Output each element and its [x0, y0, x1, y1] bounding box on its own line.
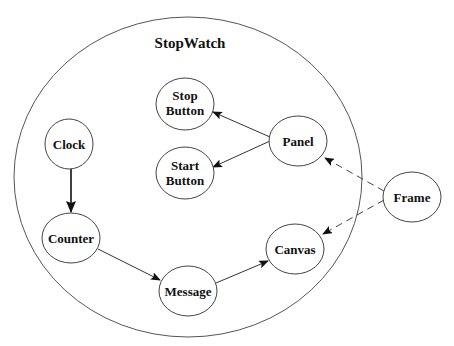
node-clock: Clock — [45, 119, 93, 169]
node-stop-button: Stop Button — [156, 78, 214, 130]
node-canvas: Canvas — [266, 224, 324, 274]
node-message: Message — [159, 266, 217, 316]
node-frame: Frame — [383, 172, 441, 222]
container-title: StopWatch — [155, 35, 227, 51]
node-clock-label: Clock — [53, 137, 86, 152]
node-message-label: Message — [165, 284, 212, 299]
edge-message-canvas — [216, 261, 268, 283]
node-frame-label: Frame — [394, 190, 431, 205]
node-start-button: Start Button — [156, 147, 214, 199]
node-start-button-line1: Start — [171, 158, 200, 173]
edge-panel-stop-button — [213, 112, 270, 137]
node-start-button-line2: Button — [166, 173, 205, 188]
edge-frame-canvas — [323, 200, 384, 234]
edge-panel-start-button — [213, 141, 270, 167]
node-counter: Counter — [42, 213, 100, 263]
node-stop-button-line2: Button — [166, 103, 205, 118]
stopwatch-diagram: StopWatch Stop Button Start Button Panel… — [0, 0, 454, 346]
edge-frame-panel — [325, 158, 384, 191]
node-panel-label: Panel — [282, 134, 313, 149]
edge-counter-message — [98, 249, 160, 280]
node-stop-button-line1: Stop — [172, 88, 197, 103]
node-canvas-label: Canvas — [274, 242, 315, 257]
node-counter-label: Counter — [48, 231, 94, 246]
edges — [71, 112, 384, 283]
node-panel: Panel — [269, 116, 327, 166]
